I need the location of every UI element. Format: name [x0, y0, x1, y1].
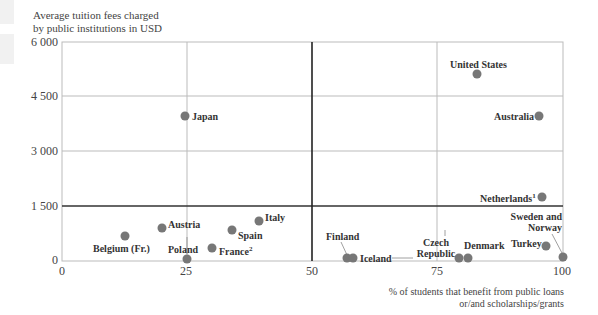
- label-france-text: France: [219, 246, 249, 257]
- label-united-states: United States: [450, 59, 507, 70]
- label-finland: Finland: [326, 231, 359, 242]
- footnote-marker: 2: [249, 245, 253, 253]
- label-denmark: Denmark: [464, 240, 505, 251]
- label-sweden-norway: Sweden and Norway: [502, 211, 562, 233]
- label-norway-line: Norway: [502, 222, 562, 233]
- label-czech-line: Czech: [413, 237, 459, 248]
- label-netherlands: Netherlands1: [480, 191, 536, 204]
- footnote-marker: 1: [532, 192, 536, 200]
- label-spain: Spain: [238, 230, 262, 241]
- label-australia: Australia: [494, 111, 534, 122]
- label-republic-line: Republic: [413, 248, 459, 259]
- label-iceland: Iceland: [360, 253, 392, 264]
- label-italy: Italy: [265, 212, 285, 223]
- label-france: France2: [219, 244, 253, 257]
- plot-area: [0, 0, 598, 315]
- label-austria: Austria: [168, 219, 200, 230]
- label-czech-republic: Czech Republic: [413, 237, 459, 259]
- label-netherlands-text: Netherlands: [480, 193, 532, 204]
- label-sweden-line: Sweden and: [502, 211, 562, 222]
- label-poland: Poland: [168, 244, 198, 255]
- label-turkey: Turkey: [511, 238, 542, 249]
- label-japan: Japan: [192, 111, 218, 122]
- label-belgium: Belgium (Fr.): [93, 243, 150, 254]
